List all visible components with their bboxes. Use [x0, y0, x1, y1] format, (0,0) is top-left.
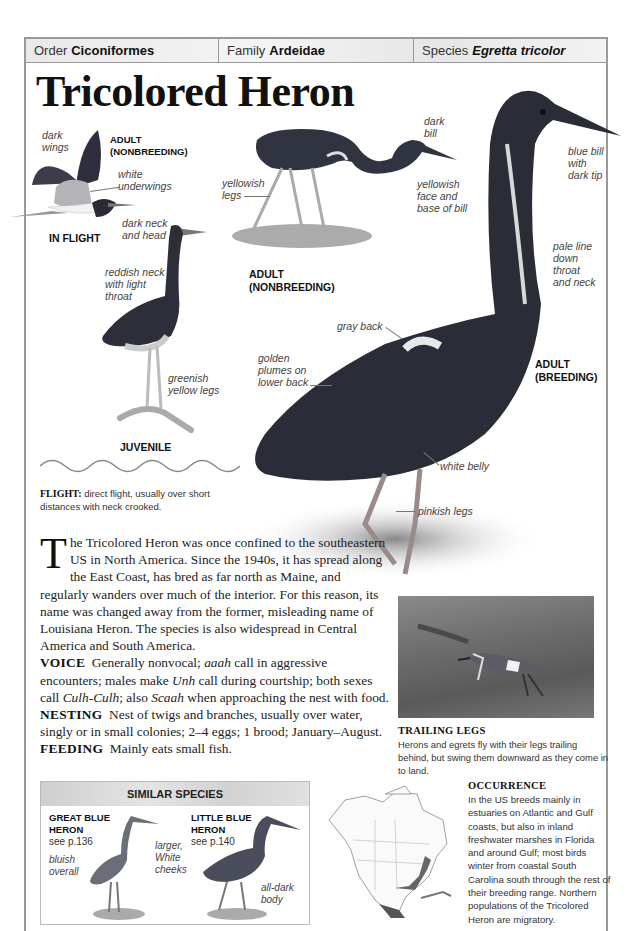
species-label: Species — [422, 43, 468, 58]
heron-flying-photo-image — [398, 596, 594, 718]
taxonomy-order: Order Ciconiformes — [26, 39, 219, 62]
occurrence-text: In the US breeds mainly in estuaries on … — [468, 793, 613, 926]
label-reddish-neck: reddish neck with light throat — [105, 266, 165, 302]
leader-line — [310, 385, 332, 386]
similar-species-heading: SIMILAR SPECIES — [41, 782, 309, 806]
label-white-underwings: white underwings — [118, 168, 172, 192]
feeding-label: FEEDING — [40, 741, 103, 756]
taxonomy-bar: Order Ciconiformes Family Ardeidae Speci… — [24, 37, 608, 63]
in-flight-caption: IN FLIGHT — [49, 232, 100, 245]
intro-paragraph: he Tricolored Heron was once confined to… — [40, 535, 385, 653]
nesting-label: NESTING — [40, 707, 102, 722]
voice-label: VOICE — [40, 655, 85, 670]
feeding-text: Mainly eats small fish. — [110, 741, 232, 756]
range-map — [325, 780, 465, 930]
family-label: Family — [227, 43, 265, 58]
taxonomy-family: Family Ardeidae — [219, 39, 414, 62]
label-greenish-legs: greenish yellow legs — [168, 372, 219, 396]
species-description: The Tricolored Heron was once confined t… — [40, 534, 390, 758]
similar-species-box: SIMILAR SPECIES GREAT BLUE HERON see p.1… — [40, 781, 310, 925]
flight-heading: FLIGHT: — [40, 488, 81, 499]
species-value: Egretta tricolor — [472, 43, 565, 58]
occurrence-title: OCCURRENCE — [468, 780, 546, 791]
label-pinkish-legs: pinkish legs — [418, 505, 473, 517]
label-gray-back: gray back — [337, 320, 383, 332]
label-pale-line: pale line down throat and neck — [553, 240, 596, 288]
taxonomy-species: Species Egretta tricolor — [414, 39, 606, 62]
nesting-section: NESTING Nest of twigs and branches, usua… — [40, 706, 390, 740]
trailing-legs-photo — [398, 596, 594, 718]
juvenile-caption: JUVENILE — [120, 441, 171, 454]
label-blue-bill: blue bill with dark tip — [568, 145, 604, 181]
great-blue-heron-illustration — [81, 810, 161, 922]
drop-cap: T — [40, 536, 67, 572]
order-label: Order — [34, 43, 67, 58]
trailing-legs-text: Herons and egrets fly with their legs tr… — [398, 738, 608, 777]
label-white-belly: white belly — [440, 460, 489, 472]
label-golden-plumes: golden plumes on lower back — [258, 352, 308, 388]
trailing-legs-title: TRAILING LEGS — [398, 725, 486, 736]
flight-pattern-wave-icon — [40, 455, 240, 477]
label-bluish-overall: bluish overall — [49, 854, 78, 878]
order-value: Ciconiformes — [71, 43, 154, 58]
label-dark-wings: dark wings — [42, 129, 69, 153]
in-flight-age-label: ADULT (NONBREEDING) — [110, 134, 188, 158]
voice-section: VOICE Generally nonvocal; aaah call in a… — [40, 654, 390, 706]
leader-line — [396, 511, 416, 512]
flight-description: FLIGHT: direct flight, usually over shor… — [40, 487, 250, 513]
heron-juvenile-illustration — [95, 218, 215, 443]
family-value: Ardeidae — [269, 43, 325, 58]
feeding-section: FEEDING Mainly eats small fish. — [40, 740, 390, 757]
adult-breeding-caption: ADULT (BREEDING) — [535, 358, 597, 384]
